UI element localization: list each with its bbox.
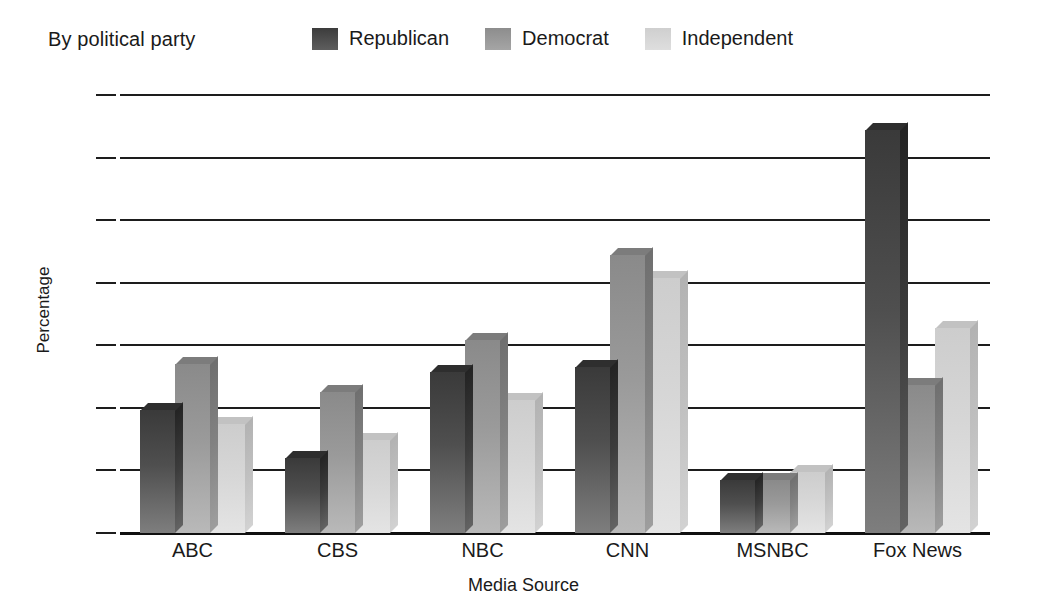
bar-side-face [970,320,978,533]
bar-side-face [680,270,688,533]
bar-side-face [610,359,618,533]
bar-group-cbs [285,95,390,533]
bar-fox-news-rep[interactable] [865,130,900,533]
bar-side-face [825,464,833,533]
legend-swatch-rep [312,28,338,50]
legend-swatch-ind [645,28,671,50]
bar-side-face [935,377,943,533]
x-tick-label-cbs: CBS [317,539,358,562]
plot-area: 05101520253035 ABCCBSNBCCNNMSNBCFox News [120,95,990,533]
bar-group-nbc [430,95,535,533]
legend-swatch-dem [485,28,511,50]
bar-side-face [245,416,253,533]
bar-side-face [355,384,363,533]
legend-label-rep: Republican [349,27,449,50]
y-tick-mark-15 [96,344,116,346]
legend-item-dem[interactable]: Democrat [485,27,609,50]
y-tick-mark-20 [96,282,116,284]
x-tick-label-fox-news: Fox News [873,539,962,562]
bar-abc-rep[interactable] [140,410,175,533]
legend-item-ind[interactable]: Independent [645,27,793,50]
bar-side-face [465,364,473,533]
bar-side-face [535,392,543,533]
bar-group-msnbc [720,95,825,533]
x-tick-label-nbc: NBC [461,539,503,562]
bar-face [720,480,755,533]
legend-label-dem: Democrat [522,27,609,50]
x-tick-label-abc: ABC [172,539,213,562]
bar-group-fox-news [865,95,970,533]
bar-side-face [500,332,508,533]
bar-side-face [755,472,763,533]
bar-face [140,410,175,533]
bar-group-abc [140,95,245,533]
bar-side-face [320,450,328,533]
y-tick-mark-30 [96,157,116,159]
x-axis-title: Media Source [0,575,1047,596]
bar-side-face [900,122,908,533]
bar-face [865,130,900,533]
legend-item-rep[interactable]: Republican [312,27,449,50]
bar-side-face [175,402,183,533]
chart-legend: RepublicanDemocratIndependent [312,27,829,50]
bar-side-face [390,432,398,533]
y-tick-mark-35 [96,94,116,96]
chart-caption: By political party [48,28,195,51]
bar-side-face [210,356,218,533]
x-tick-label-msnbc: MSNBC [736,539,808,562]
y-tick-mark-5 [96,469,116,471]
bar-cbs-rep[interactable] [285,458,320,533]
bar-chart: By political party RepublicanDemocratInd… [0,0,1047,616]
bar-face [575,367,610,533]
bar-group-cnn [575,95,680,533]
bar-nbc-rep[interactable] [430,372,465,533]
bar-cnn-rep[interactable] [575,367,610,533]
y-tick-mark-0 [96,532,116,534]
y-tick-mark-25 [96,219,116,221]
bars-layer [120,95,990,533]
y-axis-title: Percentage [34,230,54,390]
bar-face [430,372,465,533]
y-tick-mark-10 [96,407,116,409]
bar-face [285,458,320,533]
chart-header: By political party RepublicanDemocratInd… [0,28,1047,58]
x-tick-label-cnn: CNN [606,539,649,562]
bar-side-face [790,472,798,533]
bar-msnbc-rep[interactable] [720,480,755,533]
bar-side-face [645,247,653,533]
legend-label-ind: Independent [682,27,793,50]
